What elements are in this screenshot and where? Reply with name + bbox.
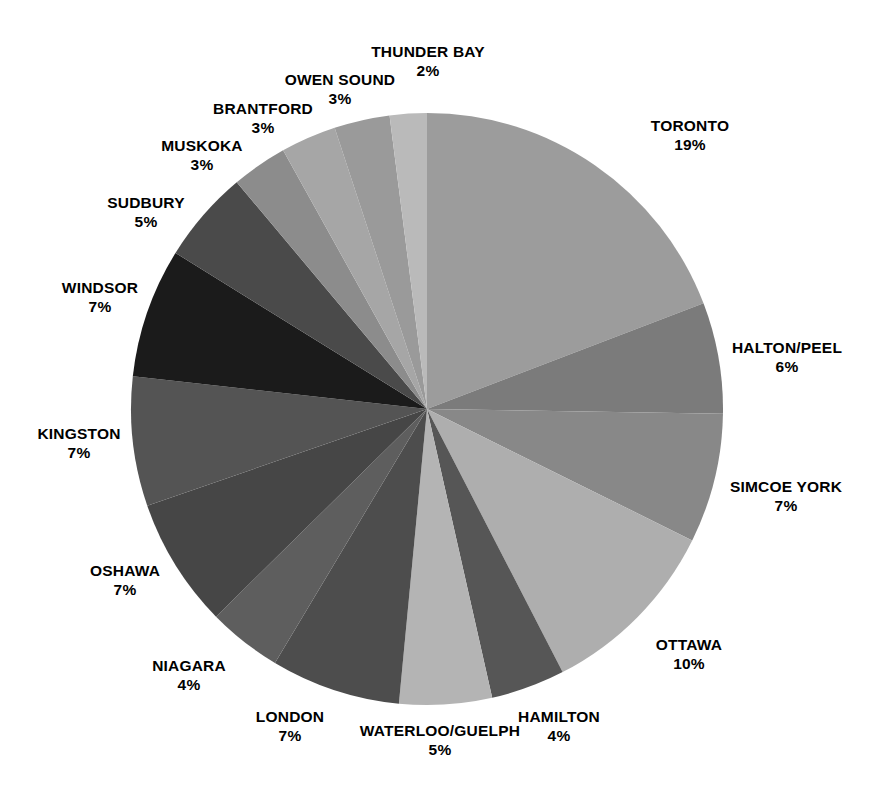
- pie-label-oshawa: OSHAWA7%: [90, 561, 160, 599]
- pie-label-name: SIMCOE YORK: [730, 477, 842, 496]
- pie-label-muskoka: MUSKOKA3%: [161, 136, 242, 174]
- pie-label-value: 4%: [152, 675, 226, 694]
- pie-label-name: NIAGARA: [152, 656, 226, 675]
- pie-label-value: 7%: [90, 580, 160, 599]
- pie-label-name: TORONTO: [651, 116, 729, 135]
- pie-label-name: HAMILTON: [518, 707, 600, 726]
- pie-label-layer: TORONTO19%HALTON/PEEL6%SIMCOE YORK7%OTTA…: [0, 0, 880, 796]
- pie-label-thunder-bay: THUNDER BAY2%: [371, 42, 485, 80]
- pie-chart-figure: TORONTO19%HALTON/PEEL6%SIMCOE YORK7%OTTA…: [0, 0, 880, 796]
- pie-label-value: 19%: [651, 135, 729, 154]
- pie-label-toronto: TORONTO19%: [651, 116, 729, 154]
- pie-label-value: 3%: [161, 155, 242, 174]
- pie-label-name: KINGSTON: [37, 424, 120, 443]
- pie-label-value: 3%: [213, 118, 313, 137]
- pie-label-halton-peel: HALTON/PEEL6%: [732, 338, 842, 376]
- pie-label-niagara: NIAGARA4%: [152, 656, 226, 694]
- pie-label-value: 10%: [656, 654, 722, 673]
- pie-label-value: 7%: [730, 496, 842, 515]
- pie-label-name: THUNDER BAY: [371, 42, 485, 61]
- pie-label-waterloo-guelph: WATERLOO/GUELPH5%: [360, 721, 520, 759]
- pie-label-simcoe-york: SIMCOE YORK7%: [730, 477, 842, 515]
- pie-label-name: HALTON/PEEL: [732, 338, 842, 357]
- pie-label-name: SUDBURY: [107, 193, 184, 212]
- pie-label-london: LONDON7%: [256, 707, 324, 745]
- pie-label-name: OTTAWA: [656, 635, 722, 654]
- pie-label-value: 7%: [256, 726, 324, 745]
- pie-label-value: 5%: [107, 212, 184, 231]
- pie-label-value: 6%: [732, 357, 842, 376]
- pie-label-name: WATERLOO/GUELPH: [360, 721, 520, 740]
- pie-label-name: LONDON: [256, 707, 324, 726]
- pie-label-kingston: KINGSTON7%: [37, 424, 120, 462]
- pie-label-value: 2%: [371, 61, 485, 80]
- pie-label-name: MUSKOKA: [161, 136, 242, 155]
- pie-label-ottawa: OTTAWA10%: [656, 635, 722, 673]
- pie-label-windsor: WINDSOR7%: [62, 278, 138, 316]
- pie-label-value: 7%: [62, 297, 138, 316]
- pie-label-hamilton: HAMILTON4%: [518, 707, 600, 745]
- pie-label-value: 7%: [37, 443, 120, 462]
- pie-label-name: OSHAWA: [90, 561, 160, 580]
- pie-label-name: WINDSOR: [62, 278, 138, 297]
- pie-label-value: 5%: [360, 740, 520, 759]
- pie-label-sudbury: SUDBURY5%: [107, 193, 184, 231]
- pie-label-value: 4%: [518, 726, 600, 745]
- pie-label-value: 3%: [285, 89, 396, 108]
